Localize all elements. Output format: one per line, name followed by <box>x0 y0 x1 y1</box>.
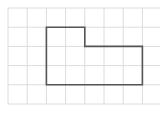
grid-lines <box>8 8 160 104</box>
l-shaped-polygon <box>46 27 142 85</box>
grid-diagram <box>0 0 160 115</box>
